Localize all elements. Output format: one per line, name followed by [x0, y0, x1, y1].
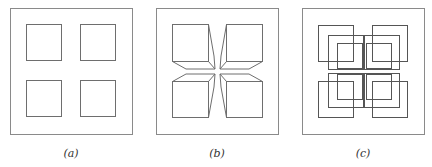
- panel-c-group-bottom-right: [365, 74, 408, 118]
- panel-a: [11, 9, 133, 135]
- panel-b-block-bottom-left: [173, 74, 216, 118]
- panel-a-square-bottom-left: [27, 81, 62, 117]
- figure: (a) (b) (c): [0, 0, 432, 167]
- panel-b-block-top-left: [173, 25, 216, 70]
- panel-a-square-bottom-right: [81, 81, 116, 117]
- panel-c-group-bottom-left: [319, 74, 364, 118]
- panel-b-block-top-right: [220, 25, 263, 70]
- panel-b-frame: [157, 9, 279, 135]
- panel-a-frame: [11, 9, 133, 135]
- panel-b: [157, 9, 279, 135]
- caption-a: (a): [51, 147, 91, 160]
- panel-c: [303, 9, 425, 135]
- panel-c-frame: [303, 9, 425, 135]
- panel-a-square-top-right: [81, 25, 116, 61]
- panel-c-group-top-right: [365, 26, 408, 70]
- panel-c-group-top-left: [319, 26, 364, 70]
- panel-a-square-top-left: [27, 25, 62, 61]
- caption-b: (b): [197, 147, 237, 160]
- caption-c: (c): [343, 147, 383, 160]
- panel-b-block-bottom-right: [220, 74, 263, 118]
- figure-canvas: [0, 0, 432, 167]
